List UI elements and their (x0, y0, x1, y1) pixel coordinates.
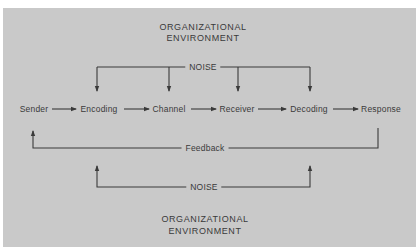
step-channel: Channel (152, 105, 185, 114)
step-receiver: Receiver (219, 105, 254, 114)
step-response: Response (361, 105, 401, 114)
step-encoding: Encoding (80, 105, 117, 114)
top-environment-line2: ENVIRONMENT (166, 34, 239, 43)
bottom-environment-line1: ORGANIZATIONAL (161, 215, 248, 224)
step-decoding: Decoding (290, 105, 328, 114)
top-noise-label: NOISE (185, 63, 220, 72)
feedback-label: Feedback (182, 144, 229, 153)
top-environment-line1: ORGANIZATIONAL (159, 23, 246, 32)
step-sender: Sender (20, 105, 49, 114)
bottom-noise-label: NOISE (186, 183, 221, 192)
bottom-environment-line2: ENVIRONMENT (168, 227, 241, 236)
